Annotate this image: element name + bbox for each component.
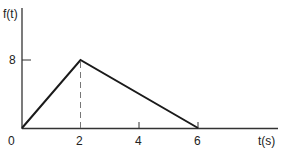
y-tick-label-8: 8 [9,53,16,67]
x-tick-label-2: 2 [76,134,83,148]
x-tick-label-6: 6 [194,134,201,148]
x-axis-label: t(s) [258,134,275,148]
y-axis-label: f(t) [3,7,18,21]
x-tick-label-4: 4 [135,134,142,148]
function-line [22,60,198,128]
x-tick-label-0: 0 [8,134,15,148]
triangular-pulse-chart: f(t) 8 0 2 4 6 t(s) [0,0,282,159]
